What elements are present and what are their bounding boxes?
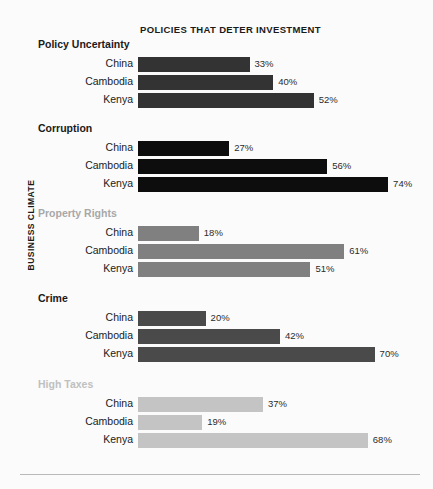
bar-row: Kenya74% bbox=[0, 176, 433, 194]
bar-row-label: Cambodia bbox=[0, 159, 133, 171]
bar-row-label: China bbox=[0, 311, 133, 323]
bar-row: China37% bbox=[0, 396, 433, 414]
bar bbox=[138, 433, 368, 448]
bar-value-label: 68% bbox=[373, 434, 392, 445]
bar-row-label: Kenya bbox=[0, 93, 133, 105]
bar-row-label: China bbox=[0, 141, 133, 153]
bar-row: Kenya68% bbox=[0, 432, 433, 450]
bar-row: China27% bbox=[0, 140, 433, 158]
bar bbox=[138, 226, 199, 241]
bar-value-label: 70% bbox=[380, 348, 399, 359]
bar-row: Cambodia19% bbox=[0, 414, 433, 432]
bar bbox=[138, 159, 327, 174]
bar-row-label: China bbox=[0, 226, 133, 238]
bar bbox=[138, 141, 229, 156]
bar bbox=[138, 244, 344, 259]
bar-value-label: 42% bbox=[285, 330, 304, 341]
bar-row: Cambodia56% bbox=[0, 158, 433, 176]
bar-value-label: 37% bbox=[268, 398, 287, 409]
bar-value-label: 19% bbox=[207, 416, 226, 427]
bar-row-label: China bbox=[0, 397, 133, 409]
bar-row-label: China bbox=[0, 57, 133, 69]
bar-value-label: 74% bbox=[393, 178, 412, 189]
bar-row: Kenya52% bbox=[0, 92, 433, 110]
bar bbox=[138, 177, 388, 192]
bar-value-label: 18% bbox=[204, 227, 223, 238]
bar-row-label: Kenya bbox=[0, 433, 133, 445]
bar-value-label: 56% bbox=[332, 160, 351, 171]
bar-row-label: Cambodia bbox=[0, 329, 133, 341]
bar bbox=[138, 262, 310, 277]
bar-value-label: 27% bbox=[234, 142, 253, 153]
bar-row-label: Kenya bbox=[0, 177, 133, 189]
bar bbox=[138, 329, 280, 344]
bar bbox=[138, 397, 263, 412]
bar-row: Kenya51% bbox=[0, 261, 433, 279]
bar-row-label: Cambodia bbox=[0, 75, 133, 87]
bar-row-label: Kenya bbox=[0, 262, 133, 274]
group-header: Crime bbox=[38, 292, 68, 304]
bar-value-label: 52% bbox=[319, 94, 338, 105]
bar-row-label: Kenya bbox=[0, 347, 133, 359]
bar-value-label: 61% bbox=[349, 245, 368, 256]
bottom-divider bbox=[20, 474, 420, 475]
bar bbox=[138, 311, 206, 326]
bar-value-label: 51% bbox=[315, 263, 334, 274]
group-header: Property Rights bbox=[38, 207, 117, 219]
bar bbox=[138, 93, 314, 108]
bar-row: Kenya70% bbox=[0, 346, 433, 364]
bar-row: China18% bbox=[0, 225, 433, 243]
group-header: Corruption bbox=[38, 122, 92, 134]
bar-row-label: Cambodia bbox=[0, 415, 133, 427]
group-header: High Taxes bbox=[38, 378, 93, 390]
bar-value-label: 40% bbox=[278, 76, 297, 87]
group-header: Policy Uncertainty bbox=[38, 38, 130, 50]
bar bbox=[138, 75, 273, 90]
bar bbox=[138, 57, 250, 72]
bar-row-label: Cambodia bbox=[0, 244, 133, 256]
bar-value-label: 33% bbox=[255, 58, 274, 69]
bar bbox=[138, 347, 375, 362]
bar bbox=[138, 415, 202, 430]
chart-container: POLICIES THAT DETER INVESTMENT BUSINESS … bbox=[0, 0, 433, 489]
bar-row: China20% bbox=[0, 310, 433, 328]
bar-value-label: 20% bbox=[211, 312, 230, 323]
bar-row: Cambodia42% bbox=[0, 328, 433, 346]
bar-row: Cambodia61% bbox=[0, 243, 433, 261]
bar-row: Cambodia40% bbox=[0, 74, 433, 92]
bar-row: China33% bbox=[0, 56, 433, 74]
plot-area: Policy UncertaintyChina33%Cambodia40%Ken… bbox=[0, 0, 433, 489]
